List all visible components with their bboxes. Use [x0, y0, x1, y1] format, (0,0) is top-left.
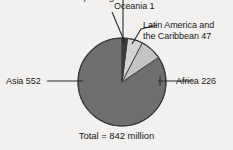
slice-label-latin-america: Latin America andthe Caribbean 47 — [143, 20, 233, 41]
pie-chart-figure: Developed regions 16 Oceania 1 Latin Ame… — [0, 0, 233, 150]
slice-label-latin-america-line1: Latin America and — [143, 20, 214, 30]
slice-label-asia: Asia 552 — [6, 76, 41, 87]
chart-total-caption: Total = 842 million — [0, 131, 233, 142]
slice-label-oceania: Oceania 1 — [114, 1, 155, 12]
slice-label-latin-america-line2: the Caribbean 47 — [143, 31, 211, 41]
slice-label-africa: Africa 226 — [176, 76, 216, 87]
